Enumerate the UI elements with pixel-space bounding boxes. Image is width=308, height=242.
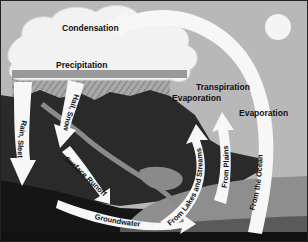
- label-evaporation-lakes: Evaporation: [172, 93, 221, 103]
- sun: [265, 14, 291, 40]
- water-cycle-diagram: Condensation Precipitation Transpiration…: [0, 0, 308, 242]
- label-transpiration: Transpiration: [196, 82, 250, 92]
- label-evaporation-ocean: Evaporation: [239, 108, 288, 118]
- precipitation-band: [12, 70, 187, 78]
- label-precipitation: Precipitation: [56, 60, 107, 70]
- label-condensation: Condensation: [62, 23, 119, 33]
